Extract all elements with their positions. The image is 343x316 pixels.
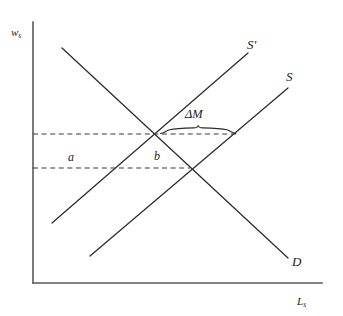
supply-curve-label: S	[286, 70, 293, 83]
region-label-a: a	[68, 151, 74, 163]
delta-m-brace	[161, 126, 236, 134]
equilibrium-label-b: b	[154, 150, 160, 162]
y-axis-label: ws	[11, 27, 21, 40]
demand-curve-label: D	[292, 255, 301, 268]
y-axis-label-subscript: s	[18, 32, 21, 40]
supply-shifted-curve	[52, 53, 248, 223]
demand-curve	[62, 48, 288, 258]
delta-m-label: ΔM	[185, 108, 203, 121]
x-axis-label-subscript: s	[303, 301, 306, 309]
economics-supply-demand-figure: ws Ls S' S D a b ΔM	[0, 0, 343, 316]
x-axis-label: Ls	[297, 296, 306, 309]
supply-shifted-curve-label: S'	[247, 38, 256, 51]
